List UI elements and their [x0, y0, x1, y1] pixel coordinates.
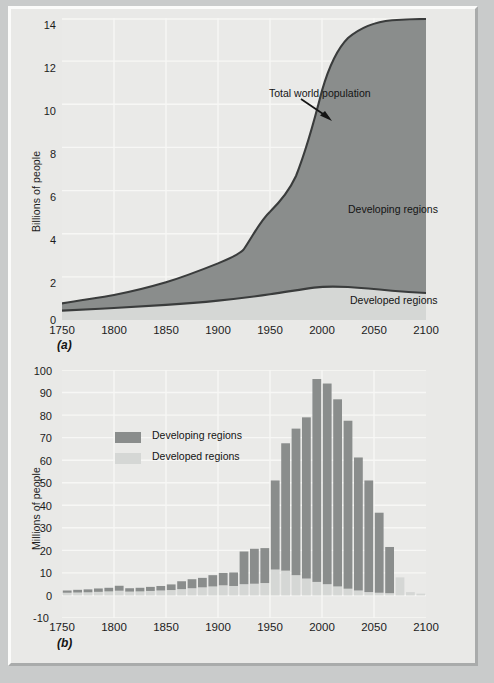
- panel-a-ytick-8: 8: [26, 149, 56, 160]
- bar-developed: [188, 588, 197, 595]
- panel-b-ytick-0: 0: [22, 591, 52, 602]
- panel-b-ytick-10: 10: [22, 568, 52, 579]
- bar-developed: [198, 587, 207, 595]
- bar-developing: [198, 578, 207, 587]
- bar-developing: [208, 575, 217, 586]
- bar-developed: [240, 584, 249, 595]
- bar-developed: [125, 592, 134, 596]
- panel-a-ytick-2: 2: [26, 278, 56, 289]
- bar-developing: [63, 590, 72, 592]
- panel-b-ytick-40: 40: [22, 501, 52, 512]
- bar-developed: [375, 593, 384, 596]
- panel-a-label-developing-regions: Developing regions: [348, 203, 438, 215]
- bar-developed: [156, 590, 165, 595]
- bar-developing: [323, 384, 332, 585]
- bar-developed: [167, 590, 176, 595]
- panel-b-ytick-20: 20: [22, 546, 52, 557]
- panel-b-xtick-2000: 2000: [299, 621, 345, 633]
- bar-developing: [188, 579, 197, 588]
- panel-b-ytick-80: 80: [22, 411, 52, 422]
- bar-developed: [250, 584, 259, 596]
- bar-developing: [312, 379, 321, 582]
- bar-developing: [229, 572, 238, 586]
- bar-developed: [104, 591, 113, 595]
- panel-a-ytick-14: 14: [26, 20, 56, 31]
- bar-developed: [260, 583, 269, 595]
- panel-b-ytick-30: 30: [22, 523, 52, 534]
- panel-a-plot-area: [62, 18, 426, 320]
- bar-developing: [73, 590, 82, 593]
- bar-developed: [292, 575, 301, 595]
- panel-b-xtick-1800: 1800: [91, 621, 137, 633]
- panel-a-xtick-1900: 1900: [195, 324, 241, 336]
- bar-developed: [333, 586, 342, 595]
- bar-developed: [406, 592, 415, 595]
- bar-developed: [73, 593, 82, 596]
- bar-developed: [136, 591, 145, 595]
- panel-a-area-chart: Billions of people 14 12 10 8 6 4 2 0: [0, 0, 494, 350]
- panel-a-xtick-1950: 1950: [247, 324, 293, 336]
- bar-developing: [240, 551, 249, 584]
- bar-developing: [167, 584, 176, 590]
- panel-a-xtick-2000: 2000: [299, 324, 345, 336]
- panel-a-xtick-1750: 1750: [39, 324, 85, 336]
- bar-developed: [229, 586, 238, 595]
- bar-developed: [396, 577, 405, 595]
- bar-developing: [271, 480, 280, 569]
- panel-a-xtick-1800: 1800: [91, 324, 137, 336]
- panel-a-ytick-4: 4: [26, 235, 56, 246]
- bar-developing: [156, 586, 165, 591]
- bar-developing: [302, 417, 311, 578]
- panel-b-id-label: (b): [57, 636, 72, 650]
- panel-b-xtick-1850: 1850: [143, 621, 189, 633]
- bar-developed: [323, 584, 332, 595]
- bar-developing: [354, 457, 363, 590]
- bar-developed: [344, 589, 353, 596]
- panel-b-ytick-50: 50: [22, 478, 52, 489]
- bar-developed: [94, 592, 103, 596]
- bar-developed: [63, 593, 72, 596]
- bar-developed: [146, 591, 155, 596]
- bar-developed: [219, 585, 228, 595]
- panel-b-xtick-2100: 2100: [403, 621, 449, 633]
- bar-developed: [281, 571, 290, 596]
- panel-a-xtick-1850: 1850: [143, 324, 189, 336]
- panel-b-legend-label-developing: Developing regions: [152, 429, 242, 441]
- panel-a-svg: [62, 18, 426, 320]
- bar-developing: [104, 588, 113, 592]
- bar-developing: [292, 429, 301, 576]
- bar-developed: [208, 586, 217, 595]
- bar-developing: [84, 589, 93, 592]
- bar-developing: [260, 548, 269, 583]
- panel-a-ytick-12: 12: [26, 63, 56, 74]
- panel-b-legend-swatch-developing: [115, 432, 141, 443]
- panel-b-legend-label-developed: Developed regions: [152, 450, 240, 462]
- panel-b-bar-chart: Millions of people 100 90 80 70 60 50 40…: [0, 370, 494, 683]
- bar-developed: [385, 593, 394, 595]
- panel-b-ytick-70: 70: [22, 433, 52, 444]
- bar-developing: [94, 588, 103, 591]
- bar-developing: [146, 587, 155, 591]
- bar-developed: [312, 582, 321, 596]
- panel-b-svg: [62, 370, 426, 618]
- panel-b-xtick-2050: 2050: [351, 621, 397, 633]
- panel-a-xtick-2100: 2100: [403, 324, 449, 336]
- panel-b-ytick-90: 90: [22, 388, 52, 399]
- bar-developing: [136, 588, 145, 592]
- panel-a-ytick-10: 10: [26, 106, 56, 117]
- bar-developing: [177, 581, 186, 589]
- bar-developing: [250, 549, 259, 584]
- bar-developed: [354, 590, 363, 595]
- bar-developing: [281, 443, 290, 570]
- bar-developing: [344, 421, 353, 589]
- bar-developed: [177, 589, 186, 595]
- panel-b-xtick-1950: 1950: [247, 621, 293, 633]
- panel-b-xtick-1750: 1750: [39, 621, 85, 633]
- panel-b-plot-area: [62, 370, 426, 618]
- bar-developing: [115, 586, 124, 591]
- bar-developing: [333, 399, 342, 586]
- figure-root: Billions of people 14 12 10 8 6 4 2 0: [0, 0, 494, 683]
- panel-a-id-label: (a): [57, 338, 72, 352]
- bar-developed: [271, 570, 280, 596]
- bar-developed: [115, 591, 124, 596]
